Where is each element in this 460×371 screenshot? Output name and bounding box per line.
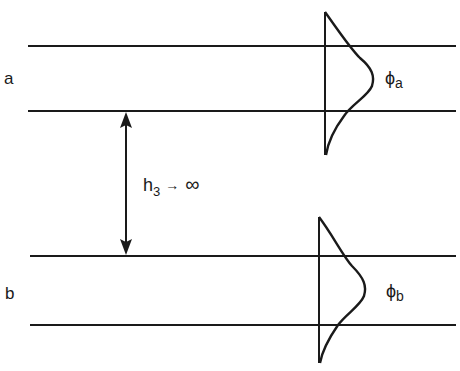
limit-arrow: → xyxy=(165,177,179,193)
separation-subscript: 3 xyxy=(153,184,160,199)
mode-a-label: ϕa xyxy=(385,68,403,91)
mode-a-subscript: a xyxy=(395,75,403,91)
mode-b-label: ϕb xyxy=(386,281,404,304)
mode-b-symbol: ϕ xyxy=(386,281,396,301)
guide-b-label: b xyxy=(5,284,14,303)
mode-profile-a: ϕa xyxy=(325,12,403,155)
separation-symbol: h xyxy=(143,175,153,195)
mode-b-curve xyxy=(319,217,365,363)
infinity-symbol: ∞ xyxy=(185,173,199,195)
separation-arrow xyxy=(120,112,132,255)
mode-b-subscript: b xyxy=(396,288,404,304)
separation-label: h3→∞ xyxy=(143,173,200,199)
mode-a-curve xyxy=(325,12,373,155)
waveguide-diagram: a b h3→∞ ϕa ϕb xyxy=(0,0,460,371)
mode-profile-b: ϕb xyxy=(319,217,404,363)
guide-a-label: a xyxy=(4,69,14,88)
mode-a-symbol: ϕ xyxy=(385,68,395,88)
